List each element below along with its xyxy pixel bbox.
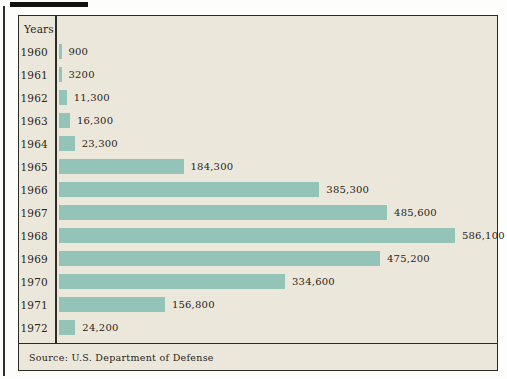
bar-cell: 24,200 xyxy=(55,320,493,335)
bar-cell: 586,100 xyxy=(55,228,493,243)
bar-1967 xyxy=(59,205,387,220)
chart-row-1968: 1968586,100 xyxy=(19,224,493,247)
year-label: 1971 xyxy=(19,299,55,311)
chart-row-1971: 1971156,800 xyxy=(19,293,493,316)
chart-figure: Years 196090019613200196211,300196316,30… xyxy=(18,15,498,371)
year-label: 1966 xyxy=(19,184,55,196)
year-label: 1970 xyxy=(19,276,55,288)
year-label: 1963 xyxy=(19,115,55,127)
bar-cell: 23,300 xyxy=(55,136,493,151)
year-label: 1962 xyxy=(19,92,55,104)
value-label: 334,600 xyxy=(292,276,335,287)
bar-1968 xyxy=(59,228,455,243)
chart-area: Years 196090019613200196211,300196316,30… xyxy=(19,16,497,343)
value-label: 385,300 xyxy=(326,184,369,195)
bar-cell: 485,600 xyxy=(55,205,493,220)
bar-cell: 3200 xyxy=(55,67,493,82)
chart-row-1960: 1960900 xyxy=(19,40,493,63)
bar-cell: 475,200 xyxy=(55,251,493,266)
chart-row-1972: 197224,200 xyxy=(19,316,493,339)
bar-1961 xyxy=(59,67,62,82)
top-accent-bar xyxy=(10,2,88,7)
year-label: 1965 xyxy=(19,161,55,173)
bar-1960 xyxy=(59,44,62,59)
value-label: 156,800 xyxy=(172,299,215,310)
value-label: 11,300 xyxy=(74,92,110,103)
year-label: 1964 xyxy=(19,138,55,150)
bar-1971 xyxy=(59,297,165,312)
years-axis-label: Years xyxy=(24,23,54,35)
year-label: 1960 xyxy=(19,46,55,58)
bar-cell: 385,300 xyxy=(55,182,493,197)
value-label: 23,300 xyxy=(82,138,118,149)
year-label: 1967 xyxy=(19,207,55,219)
bar-1964 xyxy=(59,136,75,151)
chart-rows: 196090019613200196211,300196316,30019642… xyxy=(19,40,493,339)
bar-1969 xyxy=(59,251,380,266)
chart-row-1965: 1965184,300 xyxy=(19,155,493,178)
bar-1972 xyxy=(59,320,75,335)
value-label: 900 xyxy=(69,46,89,57)
chart-row-1963: 196316,300 xyxy=(19,109,493,132)
bar-cell: 334,600 xyxy=(55,274,493,289)
chart-row-1966: 1966385,300 xyxy=(19,178,493,201)
value-label: 24,200 xyxy=(82,322,118,333)
scanned-chart-page: Years 196090019613200196211,300196316,30… xyxy=(0,0,507,379)
year-label: 1968 xyxy=(19,230,55,242)
chart-row-1964: 196423,300 xyxy=(19,132,493,155)
chart-row-1962: 196211,300 xyxy=(19,86,493,109)
page-edge-line xyxy=(3,6,5,376)
value-label: 475,200 xyxy=(387,253,430,264)
bar-1966 xyxy=(59,182,319,197)
chart-row-1961: 19613200 xyxy=(19,63,493,86)
value-label: 3200 xyxy=(69,69,95,80)
year-label: 1972 xyxy=(19,322,55,334)
bar-cell: 16,300 xyxy=(55,113,493,128)
bar-1965 xyxy=(59,159,184,174)
value-label: 184,300 xyxy=(191,161,234,172)
bar-cell: 900 xyxy=(55,44,493,59)
chart-row-1970: 1970334,600 xyxy=(19,270,493,293)
year-label: 1969 xyxy=(19,253,55,265)
value-label: 586,100 xyxy=(462,230,505,241)
source-note: Source: U.S. Department of Defense xyxy=(29,352,214,363)
source-strip: Source: U.S. Department of Defense xyxy=(19,343,497,370)
year-label: 1961 xyxy=(19,69,55,81)
bar-1962 xyxy=(59,90,67,105)
bar-1963 xyxy=(59,113,70,128)
bar-1970 xyxy=(59,274,285,289)
value-label: 16,300 xyxy=(77,115,113,126)
bar-cell: 156,800 xyxy=(55,297,493,312)
chart-row-1969: 1969475,200 xyxy=(19,247,493,270)
bar-cell: 184,300 xyxy=(55,159,493,174)
bar-cell: 11,300 xyxy=(55,90,493,105)
value-label: 485,600 xyxy=(394,207,437,218)
chart-row-1967: 1967485,600 xyxy=(19,201,493,224)
